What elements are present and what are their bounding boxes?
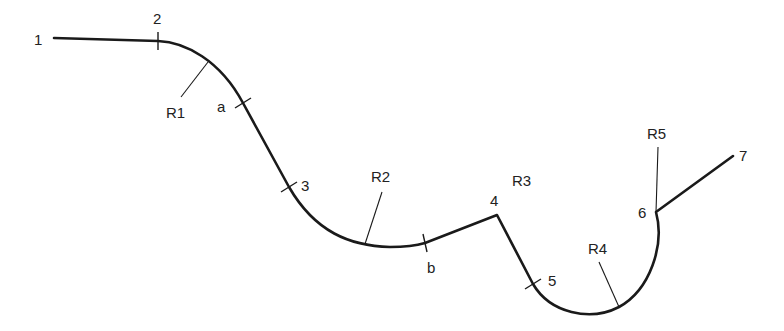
contour-path <box>54 38 733 314</box>
label-point-2: 2 <box>153 10 161 27</box>
label-radius-r1: R1 <box>166 104 185 121</box>
profile-diagram: 1 2 a 3 b 4 5 6 7 R1 R2 R3 R4 R5 <box>0 0 784 331</box>
label-point-b: b <box>427 259 435 276</box>
leader-r5 <box>656 147 658 212</box>
leader-r2 <box>365 192 382 244</box>
label-point-5: 5 <box>548 272 556 289</box>
label-point-6: 6 <box>638 204 646 221</box>
label-radius-r2: R2 <box>371 168 390 185</box>
tick-point-5 <box>525 279 541 289</box>
label-point-4: 4 <box>490 192 498 209</box>
label-radius-r4: R4 <box>588 240 607 257</box>
label-radius-r5: R5 <box>647 125 666 142</box>
label-radius-r3: R3 <box>512 172 531 189</box>
leader-r1 <box>181 62 208 97</box>
label-point-1: 1 <box>34 31 42 48</box>
diagram-canvas: 1 2 a 3 b 4 5 6 7 R1 R2 R3 R4 R5 <box>0 0 784 331</box>
leader-r4 <box>599 262 619 307</box>
tick-point-a <box>235 98 251 108</box>
label-point-3: 3 <box>301 177 309 194</box>
label-point-a: a <box>217 98 226 115</box>
label-point-7: 7 <box>739 147 747 164</box>
tick-point-3 <box>281 182 297 192</box>
